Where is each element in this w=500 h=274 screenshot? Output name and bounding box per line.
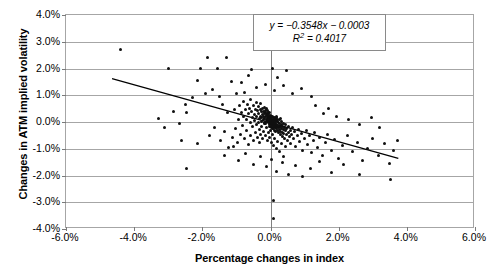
data-point [321,154,324,157]
data-point [294,164,297,167]
data-point [185,111,188,114]
regression-equation: y = −0.3548x − 0.0003 [257,19,382,32]
data-point [293,130,296,133]
data-point [377,154,380,157]
data-point [255,101,258,104]
data-point [306,143,309,146]
data-point [264,134,267,137]
data-point [361,159,364,162]
data-point [287,125,290,128]
data-point [249,134,252,137]
r-squared-label: R [293,33,300,44]
data-point [303,137,306,140]
data-point [335,115,338,118]
data-point [288,135,291,138]
data-point [213,126,216,129]
data-point [245,129,248,132]
data-point [249,121,252,124]
data-point [285,69,288,72]
data-point [330,171,333,174]
data-point [252,104,255,107]
data-point [356,141,359,144]
data-point [351,150,354,153]
data-point [199,67,202,70]
data-point [255,123,258,126]
data-point [301,149,304,152]
data-point [259,155,262,158]
data-point [241,124,244,127]
data-point [261,137,264,140]
data-point [247,143,250,146]
data-point [281,161,284,164]
data-point [337,157,340,160]
data-point [240,81,243,84]
y-tick-mark [62,15,66,16]
x-tick-label: 0.0% [240,232,300,243]
data-point [259,133,262,136]
data-point [227,146,230,149]
data-point [287,173,290,176]
data-point [310,151,313,154]
data-point [312,139,315,142]
data-point [219,139,222,142]
data-point [276,140,279,143]
data-point [218,95,221,98]
data-point [358,173,361,176]
data-point [256,136,259,139]
data-point [238,104,241,107]
data-point [296,134,299,137]
data-point [269,129,272,132]
data-point [318,136,321,139]
data-point [305,129,308,132]
data-point [231,136,234,139]
y-tick-label: 0.0% [16,116,60,126]
y-tick-label: 4.0% [16,9,60,19]
data-point [289,142,292,145]
r-squared-value: R2 = 0.4017 [257,32,382,45]
y-tick-mark [62,95,66,96]
data-point [292,137,295,140]
data-point [333,138,336,141]
data-point [251,125,254,128]
data-point [255,86,258,89]
data-point [282,84,285,87]
data-point [243,137,246,140]
data-point [216,67,219,70]
data-point [272,199,275,202]
data-point [237,118,240,121]
data-point [294,145,297,148]
data-point [310,95,313,98]
data-point [239,133,242,136]
data-point [258,141,261,144]
y-tick-label: -2.0% [16,170,60,180]
x-tick-label: 4.0% [376,232,436,243]
data-point [284,145,287,148]
data-point [322,112,325,115]
data-point [342,163,345,166]
data-point [226,111,229,114]
data-point [250,68,253,71]
data-point [396,139,399,142]
data-point [370,116,373,119]
data-point [300,87,303,90]
data-point [237,159,240,162]
data-point [378,126,381,129]
data-point [313,131,316,134]
data-point [270,158,273,161]
data-point [167,67,170,70]
data-point [282,155,285,158]
data-point [184,103,187,106]
data-point [388,162,391,165]
data-point [230,80,233,83]
y-tick-label: 2.0% [16,63,60,73]
data-point [291,92,294,95]
data-point [314,104,317,107]
data-point [297,128,300,131]
data-point [254,131,257,134]
data-point [249,98,252,101]
y-tick-mark [62,149,66,150]
data-point [119,48,122,51]
data-point [264,83,267,86]
data-point [262,130,265,133]
data-point [247,112,250,115]
